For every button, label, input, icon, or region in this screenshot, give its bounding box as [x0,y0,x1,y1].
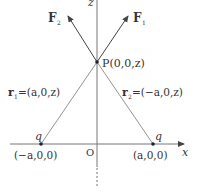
point-p-label: P(0,0,z) [102,57,145,70]
charge-right-coord: (a,0,0) [133,149,168,161]
charge-right-label: q [155,130,162,143]
coulomb-force-diagram: z x O P(0,0,z) q (−a,0,0) q (a,0,0) F 1 … [0,0,201,195]
z-axis-label: z [87,0,94,9]
svg-text:1: 1 [142,19,146,26]
point-p-dot [95,60,99,64]
svg-text:2: 2 [57,19,61,26]
r1-label: r 1 =(a,0,z) [8,86,60,100]
charge-left-label: q [35,130,42,143]
r2-line [97,62,153,144]
svg-text:=(a,0,z): =(a,0,z) [18,86,60,98]
svg-text:=(−a,0,z): =(−a,0,z) [132,86,183,98]
f1-arrow [97,16,128,62]
svg-text:F: F [133,11,142,25]
charge-left-coord: (−a,0,0) [14,149,57,161]
f1-label: F 1 [133,11,146,26]
svg-text:F: F [48,11,57,25]
origin-label: O [86,147,94,158]
f2-arrow [68,16,97,62]
r1-line [41,62,97,144]
r2-label: r 2 =(−a,0,z) [122,86,183,100]
f2-label: F 2 [48,11,61,26]
diagram-canvas: z x O P(0,0,z) q (−a,0,0) q (a,0,0) F 1 … [0,0,201,195]
x-axis-label: x [182,146,189,159]
